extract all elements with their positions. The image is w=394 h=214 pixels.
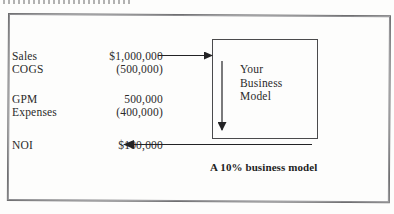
- row-label-noi: NOI: [12, 139, 33, 151]
- figure-caption: A 10% business model: [210, 161, 317, 173]
- row-value-gpm: 500,000: [58, 93, 163, 105]
- business-model-line-1: Your: [240, 63, 283, 77]
- row-label-cogs: COGS: [12, 63, 43, 75]
- income-statement-block: Sales $1,000,000 COGS (500,000) GPM 500,…: [0, 0, 394, 214]
- row-value-sales: $1,000,000: [58, 50, 163, 62]
- row-label-sales: Sales: [12, 50, 37, 62]
- row-label-expenses: Expenses: [12, 106, 57, 118]
- row-value-expenses: (400,000): [58, 106, 163, 118]
- row-label-gpm: GPM: [12, 93, 38, 105]
- row-value-noi: $100,000: [58, 139, 163, 151]
- business-model-line-3: Model: [240, 90, 283, 104]
- business-model-label: Your Business Model: [240, 63, 283, 104]
- business-model-line-2: Business: [240, 77, 283, 91]
- row-value-cogs: (500,000): [58, 63, 163, 75]
- figure-page: Sales $1,000,000 COGS (500,000) GPM 500,…: [0, 0, 394, 214]
